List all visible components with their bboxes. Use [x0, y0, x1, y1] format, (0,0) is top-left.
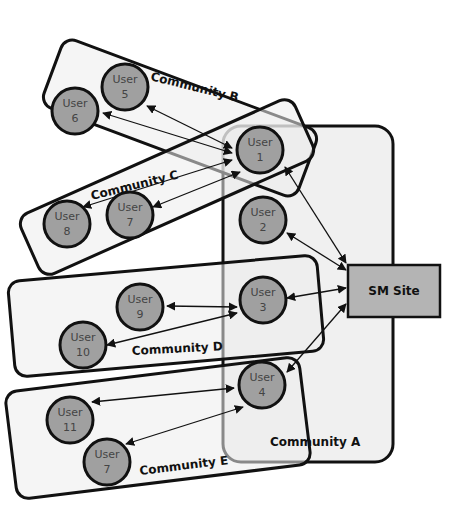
user-node-7-community-e: User 7: [84, 439, 130, 485]
svg-text:User: User: [94, 448, 120, 461]
user-node-6: User 6: [52, 88, 98, 134]
sm-site: SM Site: [348, 265, 440, 317]
svg-text:9: 9: [137, 308, 144, 321]
user-node-10: User 10: [60, 322, 106, 368]
community-a-label: Community A: [270, 435, 361, 449]
svg-text:User: User: [57, 406, 83, 419]
svg-text:User: User: [62, 97, 88, 110]
svg-text:User: User: [112, 73, 138, 86]
user-node-3: User 3: [240, 277, 286, 323]
svg-text:2: 2: [260, 221, 267, 234]
user-node-5: User 5: [102, 64, 148, 110]
user-node-11: User 11: [47, 397, 93, 443]
svg-text:6: 6: [72, 112, 79, 125]
svg-text:User: User: [117, 201, 143, 214]
user-node-4: User 4: [239, 362, 285, 408]
svg-text:User: User: [127, 293, 153, 306]
sm-site-label: SM Site: [368, 284, 419, 298]
svg-text:7: 7: [127, 216, 134, 229]
svg-text:1: 1: [257, 151, 264, 164]
svg-text:5: 5: [122, 88, 129, 101]
svg-text:7: 7: [104, 463, 111, 476]
user-node-8: User 8: [44, 201, 90, 247]
svg-text:4: 4: [259, 386, 266, 399]
svg-text:User: User: [250, 286, 276, 299]
svg-text:User: User: [249, 371, 275, 384]
svg-text:3: 3: [260, 301, 267, 314]
svg-text:11: 11: [63, 421, 77, 434]
user-node-9: User 9: [117, 284, 163, 330]
svg-text:User: User: [250, 206, 276, 219]
svg-text:10: 10: [76, 346, 90, 359]
svg-text:User: User: [247, 136, 273, 149]
user-node-1: User 1: [237, 127, 283, 173]
user-node-2: User 2: [240, 197, 286, 243]
svg-text:User: User: [70, 331, 96, 344]
user-node-7-community-c: User 7: [107, 192, 153, 238]
svg-text:User: User: [54, 210, 80, 223]
svg-text:8: 8: [64, 225, 71, 238]
community-diagram: SM Site User 1 User 2 User 3 User 4 User…: [0, 0, 468, 531]
